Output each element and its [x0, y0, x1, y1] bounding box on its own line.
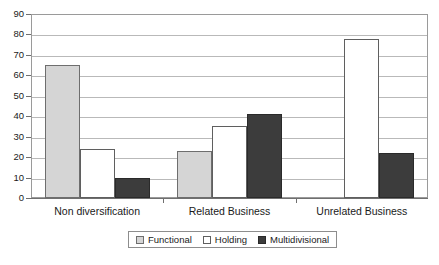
x-category-label: Unrelated Business [316, 205, 407, 217]
legend-label: Functional [148, 235, 192, 245]
x-axis-separator [163, 198, 164, 203]
legend-entry: Multidivisional [258, 235, 329, 245]
legend-swatch-multidivisional-icon [258, 236, 266, 244]
bars-layer [31, 14, 428, 198]
y-tick-label: 80 [13, 30, 24, 40]
bar-chart: 0102030405060708090 Non diversificationR… [0, 0, 439, 265]
bar-holding [212, 126, 247, 198]
x-axis-line [31, 198, 428, 199]
bar-multidivisional [115, 178, 150, 198]
y-tick-label: 10 [13, 173, 24, 183]
y-tick-label: 30 [13, 132, 24, 142]
bar-multidivisional [247, 114, 282, 198]
bar-holding [344, 39, 379, 198]
y-axis: 0102030405060708090 [0, 14, 31, 198]
x-category-label: Related Business [189, 205, 271, 217]
y-tick-label: 70 [13, 50, 24, 60]
legend-label: Holding [215, 235, 247, 245]
legend-swatch-holding-icon [203, 236, 211, 244]
legend-entry: Functional [136, 235, 192, 245]
y-tick-label: 20 [13, 152, 24, 162]
chart-legend: FunctionalHoldingMultidivisional [128, 231, 337, 248]
legend-swatch-functional-icon [136, 236, 144, 244]
y-tick-label: 60 [13, 71, 24, 81]
bar-holding [80, 149, 115, 198]
y-tick-label: 0 [19, 193, 24, 203]
bar-functional [45, 65, 80, 198]
x-axis-separator [296, 198, 297, 203]
y-tick-label: 50 [13, 91, 24, 101]
y-tick-label: 40 [13, 111, 24, 121]
bar-functional [177, 151, 212, 198]
y-tick-label: 90 [13, 9, 24, 19]
legend-label: Multidivisional [270, 235, 329, 245]
x-category-label: Non diversification [54, 205, 140, 217]
legend-entry: Holding [203, 235, 247, 245]
bar-multidivisional [379, 153, 414, 198]
